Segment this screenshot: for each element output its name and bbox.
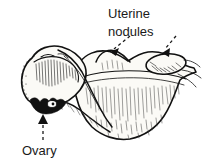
fimbria-dot	[52, 103, 55, 106]
label-uterine-nodules-line1: Uterine	[108, 6, 150, 21]
label-uterine-nodules-line2: nodules	[108, 24, 154, 39]
anatomical-figure: Uterine nodules Ovary	[0, 0, 206, 163]
figure-canvas: Uterine nodules Ovary	[0, 0, 206, 163]
label-ovary: Ovary	[22, 143, 57, 158]
